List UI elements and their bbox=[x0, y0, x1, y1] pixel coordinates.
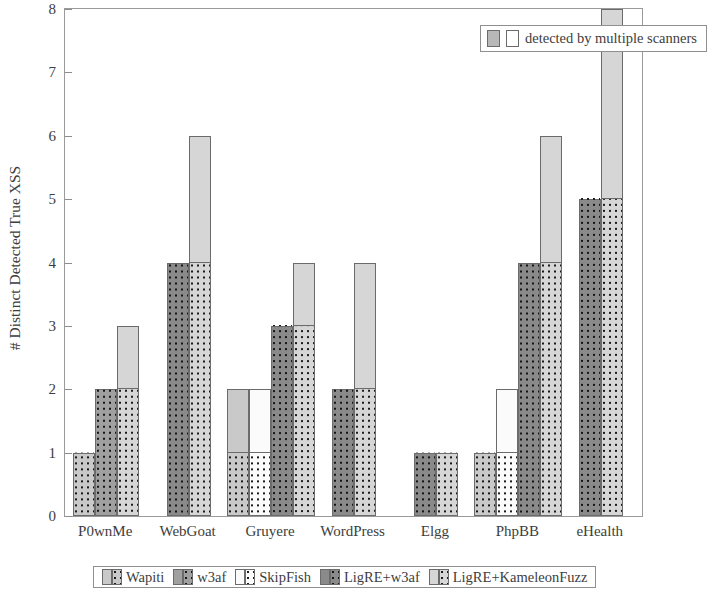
legend-swatch-plain bbox=[320, 569, 330, 585]
bar bbox=[332, 389, 354, 516]
legend-swatch-plain bbox=[173, 569, 183, 585]
y-axis-tick-mark bbox=[65, 9, 72, 10]
x-axis-tick-label: Elgg bbox=[421, 523, 449, 540]
bar bbox=[189, 136, 211, 516]
bar bbox=[474, 453, 496, 516]
legend-swatch-plain bbox=[429, 569, 439, 585]
bar-multi-scanner-segment bbox=[437, 452, 457, 515]
y-axis-tick-label: 2 bbox=[34, 382, 56, 397]
legend-swatch-plain bbox=[102, 569, 112, 585]
y-axis-tick-mark bbox=[65, 326, 72, 327]
legend-swatch-dotted-dark bbox=[487, 30, 500, 47]
y-axis-tick-mark bbox=[65, 72, 72, 73]
bar-multi-scanner-segment bbox=[497, 452, 517, 515]
legend-entry-label: SkipFish bbox=[259, 569, 311, 586]
bar bbox=[95, 389, 117, 516]
legend-entry: Wapiti bbox=[102, 569, 164, 586]
bar bbox=[227, 389, 249, 516]
legend-entry-label: Wapiti bbox=[126, 569, 164, 586]
bar bbox=[249, 389, 271, 516]
y-axis-tick-mark bbox=[65, 136, 72, 137]
bar-multi-scanner-segment bbox=[580, 198, 600, 515]
y-axis-tick-label: 5 bbox=[34, 192, 56, 207]
bar bbox=[271, 326, 293, 516]
legend-swatch-dotted bbox=[439, 569, 449, 585]
y-axis-title: # Distinct Detected True XSS bbox=[6, 166, 24, 350]
plot-area: detected by multiple scanners bbox=[64, 8, 643, 517]
y-axis-tick-label: 4 bbox=[34, 255, 56, 270]
y-axis-tick-mark bbox=[65, 389, 72, 390]
bar-multi-scanner-segment bbox=[190, 262, 210, 516]
bar-multi-scanner-segment bbox=[272, 325, 292, 515]
x-axis-tick-label: eHealth bbox=[576, 523, 623, 540]
x-axis-tick-label: WebGoat bbox=[160, 523, 216, 540]
bar bbox=[293, 263, 315, 517]
y-axis-tick-mark bbox=[65, 199, 72, 200]
legend-multiple-scanners: detected by multiple scanners bbox=[480, 25, 707, 52]
bar bbox=[579, 199, 601, 516]
legend-series: Wapitiw3afSkipFishLigRE+w3afLigRE+Kamele… bbox=[93, 566, 596, 588]
bar-multi-scanner-segment bbox=[118, 388, 138, 515]
legend-swatch-dotted bbox=[330, 569, 340, 585]
legend-entry-label: LigRE+KameleonFuzz bbox=[453, 569, 588, 586]
bar bbox=[518, 263, 540, 517]
bar bbox=[167, 263, 189, 517]
bar-multi-scanner-segment bbox=[475, 452, 495, 515]
y-axis-tick-label: 1 bbox=[34, 445, 56, 460]
x-axis-tick-label: Gruyere bbox=[245, 523, 294, 540]
bar-multi-scanner-segment bbox=[333, 388, 353, 515]
bar bbox=[117, 326, 139, 516]
legend-swatch-dotted-light bbox=[506, 30, 519, 47]
bar-multi-scanner-segment bbox=[602, 198, 622, 515]
bar bbox=[496, 389, 518, 516]
legend-entry-label: LigRE+w3af bbox=[344, 569, 420, 586]
y-axis-tick-mark bbox=[65, 516, 72, 517]
x-axis-tick-label: WordPress bbox=[320, 523, 385, 540]
bar bbox=[73, 453, 95, 516]
y-axis-tick-label: 0 bbox=[34, 509, 56, 524]
y-axis-tick-label: 3 bbox=[34, 318, 56, 333]
bar bbox=[540, 136, 562, 516]
bar bbox=[601, 9, 623, 516]
x-axis-tick-label: P0wnMe bbox=[78, 523, 132, 540]
legend-swatch-dotted bbox=[245, 569, 255, 585]
bar-multi-scanner-segment bbox=[168, 262, 188, 516]
bar-multi-scanner-segment bbox=[250, 452, 270, 515]
legend-entry-label: w3af bbox=[197, 569, 226, 586]
legend-multiple-scanners-label: detected by multiple scanners bbox=[525, 30, 697, 47]
y-axis-tick-label: 7 bbox=[34, 65, 56, 80]
x-axis-tick-label: PhpBB bbox=[496, 523, 539, 540]
bar-multi-scanner-segment bbox=[228, 452, 248, 515]
y-axis-tick-mark bbox=[65, 453, 72, 454]
legend-entry: LigRE+KameleonFuzz bbox=[429, 569, 588, 586]
legend-entry: LigRE+w3af bbox=[320, 569, 420, 586]
y-axis-tick-mark bbox=[65, 263, 72, 264]
bar-multi-scanner-segment bbox=[541, 262, 561, 516]
y-axis-title-wrapper: # Distinct Detected True XSS bbox=[22, 0, 24, 517]
bar-multi-scanner-segment bbox=[355, 388, 375, 515]
bar-multi-scanner-segment bbox=[74, 452, 94, 515]
y-axis-tick-label: 8 bbox=[34, 2, 56, 17]
y-axis-tick-label: 6 bbox=[34, 128, 56, 143]
legend-entry: SkipFish bbox=[235, 569, 311, 586]
bar-multi-scanner-segment bbox=[294, 325, 314, 515]
bar-multi-scanner-segment bbox=[96, 388, 116, 515]
bar-multi-scanner-segment bbox=[519, 262, 539, 516]
legend-swatch-plain bbox=[235, 569, 245, 585]
legend-swatch-dotted bbox=[112, 569, 122, 585]
bar-multi-scanner-segment bbox=[415, 452, 435, 515]
legend-entry: w3af bbox=[173, 569, 226, 586]
bar bbox=[436, 453, 458, 516]
bar bbox=[414, 453, 436, 516]
bar bbox=[354, 263, 376, 517]
legend-swatch-dotted bbox=[183, 569, 193, 585]
